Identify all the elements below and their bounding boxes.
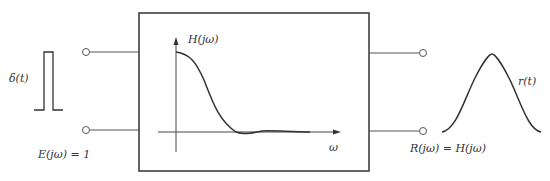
output-signal-label: r(t): [518, 75, 536, 88]
output-terminal-top: [420, 50, 427, 57]
input-signal-label: δ(t): [9, 72, 29, 85]
impulse-signal: [34, 52, 63, 110]
response-signal: [442, 54, 541, 132]
input-terminal-bottom: [83, 127, 90, 134]
output-terminal-bottom: [420, 128, 427, 135]
input-spectrum-label: E(jω) = 1: [38, 148, 90, 161]
transfer-function-label: H(jω): [188, 33, 219, 46]
output-spectrum-label: R(jω) = H(jω): [410, 142, 486, 155]
omega-axis-label: ω: [329, 141, 338, 154]
input-terminal-top: [83, 49, 90, 56]
